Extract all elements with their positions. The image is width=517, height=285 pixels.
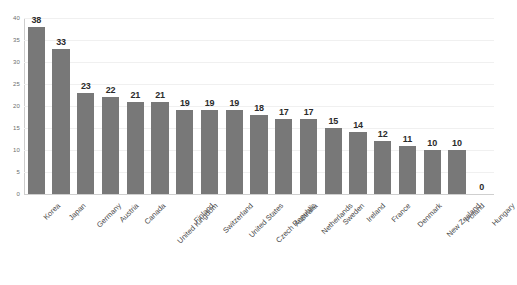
bar-slot[interactable]: 11 [399,18,416,194]
y-axis-tick-label: 10 [13,147,20,153]
bar-value-label: 19 [229,98,239,108]
bar[interactable] [226,110,243,194]
bar[interactable] [176,110,193,194]
bar-slot[interactable]: 19 [201,18,218,194]
x-axis-tick: Denmark [416,201,444,229]
bar-value-label: 21 [131,90,141,100]
bar[interactable] [399,146,416,194]
y-axis-tick-label: 5 [16,169,20,175]
bar-slot[interactable]: 17 [275,18,292,194]
x-axis-tick: Ireland [364,201,387,224]
bar-slot[interactable]: 10 [448,18,465,194]
bar-value-label: 17 [279,107,289,117]
bar[interactable] [250,115,267,194]
bar-value-label: 10 [452,138,462,148]
bar-slot[interactable]: 19 [226,18,243,194]
bar-value-label: 33 [56,37,66,47]
bar-value-label: 11 [403,134,412,144]
axis-baseline [24,194,494,195]
bars-group: 3833232221211919191817171514121110100 [24,18,494,194]
plot-area: 3833232221211919191817171514121110100 [24,18,494,194]
bar-slot[interactable]: 12 [374,18,391,194]
y-axis-tick-label: 40 [13,15,20,21]
x-axis-tick-label: Japan [67,201,88,222]
bar-value-label: 22 [106,85,116,95]
bar[interactable] [77,93,94,194]
bar-slot[interactable]: 15 [325,18,342,194]
x-axis-tick-label: Denmark [416,201,444,229]
bar-slot[interactable]: 17 [300,18,317,194]
bar-slot[interactable]: 22 [102,18,119,194]
x-axis-tick-label: Poland [463,201,486,224]
x-axis-tick-label: Canada [143,201,168,226]
x-axis-tick-label: Hungary [490,201,516,227]
bar-value-label: 0 [479,182,484,192]
x-axis-tick-label: France [389,201,412,224]
bar-slot[interactable]: 33 [52,18,69,194]
bar[interactable] [374,141,391,194]
bar-value-label: 17 [304,107,314,117]
y-axis-tick-label: 35 [13,37,20,43]
bar-value-label: 19 [180,98,190,108]
bar[interactable] [424,150,441,194]
bar[interactable] [275,119,292,194]
bar-value-label: 15 [328,116,338,126]
x-axis-tick-label: Korea [42,201,63,222]
bar[interactable] [325,128,342,194]
bar-slot[interactable]: 0 [473,18,490,194]
bar-slot[interactable]: 23 [77,18,94,194]
bar[interactable] [28,27,45,194]
bar-value-label: 12 [378,129,388,139]
bar[interactable] [448,150,465,194]
bar[interactable] [151,102,168,194]
y-axis-tick-label: 30 [13,59,20,65]
bar-slot[interactable]: 14 [349,18,366,194]
bar-slot[interactable]: 18 [250,18,267,194]
bar[interactable] [127,102,144,194]
bar-value-label: 14 [353,120,363,130]
y-axis-tick-label: 20 [13,103,20,109]
bar-slot[interactable]: 21 [127,18,144,194]
bar-value-label: 18 [254,103,264,113]
bar-value-label: 19 [205,98,215,108]
x-axis: KoreaJapanGermanyAustriaCanadaUnited Kin… [24,197,494,285]
bar[interactable] [102,97,119,194]
bar-slot[interactable]: 21 [151,18,168,194]
bar[interactable] [300,119,317,194]
bar[interactable] [52,49,69,194]
bar-chart: 0510152025303540 38332322212119191918171… [0,0,517,285]
y-axis: 0510152025303540 [0,18,20,194]
bar-slot[interactable]: 10 [424,18,441,194]
x-axis-tick: France [389,201,412,224]
x-axis-tick: Japan [67,201,88,222]
x-axis-tick-label: Ireland [364,201,387,224]
x-axis-tick: Hungary [490,201,516,227]
bar[interactable] [201,110,218,194]
x-axis-tick: Canada [143,201,168,226]
bar-slot[interactable]: 19 [176,18,193,194]
bar-value-label: 10 [427,138,437,148]
y-axis-tick-label: 25 [13,81,20,87]
y-axis-tick-label: 0 [16,191,20,197]
x-axis-tick: Korea [42,201,63,222]
bar-value-label: 21 [155,90,165,100]
y-axis-tick-label: 15 [13,125,20,131]
bar[interactable] [349,132,366,194]
bar-value-label: 38 [32,15,42,25]
x-axis-tick: Poland [463,201,486,224]
bar-value-label: 23 [81,81,91,91]
bar-slot[interactable]: 38 [28,18,45,194]
